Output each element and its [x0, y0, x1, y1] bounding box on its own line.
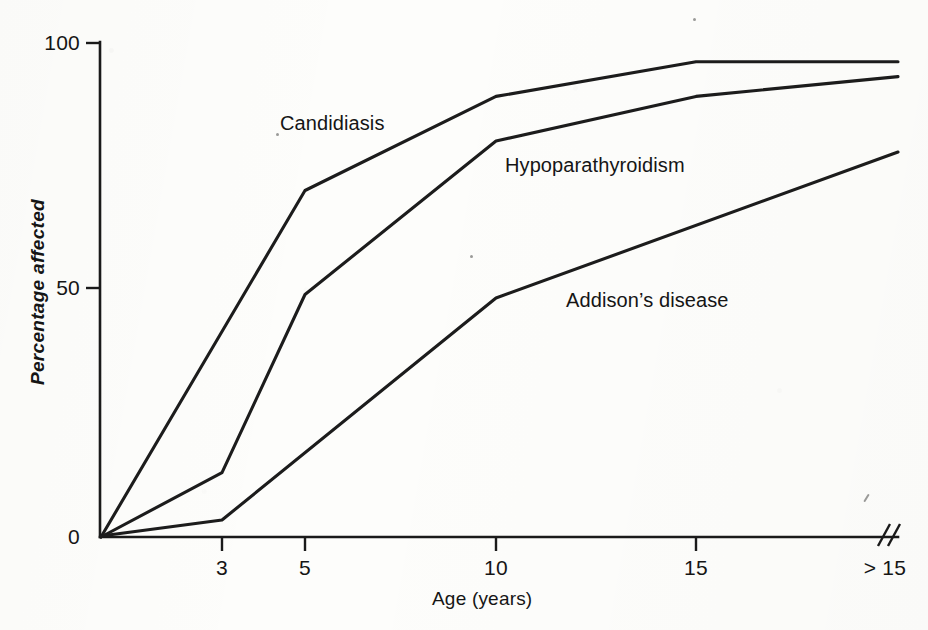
series-line-hypoparathyroidism	[101, 77, 898, 537]
y-tick-label-0: 0	[20, 525, 80, 549]
series-label-candidiasis: Candidiasis	[280, 112, 385, 135]
x-tick-label-5: 5	[275, 556, 335, 580]
series-label-hypoparathyroidism: Hypoparathyroidism	[505, 154, 685, 177]
axis-break-icon	[878, 524, 890, 546]
series-line-candidiasis	[101, 62, 898, 537]
series-line-addisons-disease	[101, 152, 898, 536]
y-axis-title: Percentage affected	[27, 199, 49, 385]
x-tick-label-15: 15	[666, 556, 726, 580]
y-tick-label-100: 100	[20, 31, 80, 55]
x-tick-label-over-15: > 15	[850, 556, 920, 580]
chart-plot-area	[0, 0, 928, 630]
x-tick-label-10: 10	[466, 556, 526, 580]
chart-page: 100 50 0 3 5 10 15 > 15 Age (years) Perc…	[0, 0, 928, 630]
series-label-addisons-disease: Addison’s disease	[566, 289, 729, 312]
x-tick-label-3: 3	[192, 556, 252, 580]
x-axis-title: Age (years)	[432, 588, 532, 610]
axis-break-icon	[888, 524, 900, 546]
